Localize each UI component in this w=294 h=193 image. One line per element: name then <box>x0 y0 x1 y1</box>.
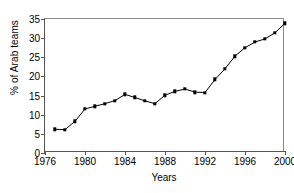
x-axis-tick-label: 1984 <box>114 156 136 167</box>
data-point-marker <box>143 99 146 102</box>
y-axis-title: % of Arab teams <box>9 0 20 118</box>
data-point-marker <box>233 54 236 57</box>
data-point-marker <box>213 78 216 81</box>
data-point-marker <box>253 40 256 43</box>
x-axis-tick-mark <box>285 151 286 155</box>
data-point-marker <box>113 99 116 102</box>
data-point-marker <box>183 87 186 90</box>
x-axis-tick-label: 1996 <box>234 156 256 167</box>
x-axis-title: Years <box>44 172 284 183</box>
data-point-marker <box>133 96 136 99</box>
data-point-marker <box>173 90 176 93</box>
data-point-marker <box>243 46 246 49</box>
data-point-marker <box>273 31 276 34</box>
data-point-marker <box>83 107 86 110</box>
data-point-marker <box>193 90 196 93</box>
data-point-marker <box>223 67 226 70</box>
data-point-marker <box>73 120 76 123</box>
plot-area: 05101520253035 1976198019841988199219962… <box>44 18 284 152</box>
data-point-marker <box>163 93 166 96</box>
data-point-marker <box>93 105 96 108</box>
x-axis-tick-label: 2000 <box>274 156 294 167</box>
x-axis-tick-label: 1988 <box>154 156 176 167</box>
series-line <box>45 19 285 153</box>
x-axis-tick-label: 1976 <box>34 156 56 167</box>
data-point-marker <box>153 102 156 105</box>
data-point-marker <box>283 22 286 25</box>
data-point-marker <box>63 128 66 131</box>
data-point-marker <box>203 91 206 94</box>
data-series-arab-teams <box>45 19 285 153</box>
chart-figure: % of Arab teams 05101520253035 197619801… <box>0 0 294 193</box>
data-point-marker <box>123 93 126 96</box>
x-axis-tick-label: 1992 <box>194 156 216 167</box>
data-point-marker <box>263 37 266 40</box>
data-point-marker <box>103 102 106 105</box>
x-axis-tick-label: 1980 <box>74 156 96 167</box>
data-point-marker <box>53 128 56 131</box>
